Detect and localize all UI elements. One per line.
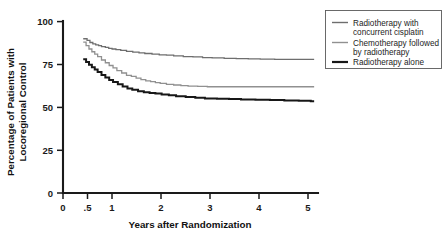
x-tick-label: 0 xyxy=(60,202,65,213)
series-line xyxy=(83,39,314,60)
chart-series-group xyxy=(83,39,314,101)
legend-label: Chemotherapy followed xyxy=(353,39,439,48)
y-tick-label: 100 xyxy=(37,16,53,27)
x-tick-label: .5 xyxy=(84,202,93,213)
y-axis-title-line2: Locoregional Control xyxy=(17,62,28,161)
y-tick-label: 25 xyxy=(42,145,53,156)
x-tick-label: 4 xyxy=(256,202,262,213)
legend-label: Radiotherapy with xyxy=(353,19,419,28)
y-axis-title-line1: Percentage of Patients with xyxy=(5,48,16,176)
legend-label: by radiotherapy xyxy=(353,48,410,57)
legend-label: concurrent cisplatin xyxy=(353,28,424,37)
x-axis-ticks: 0 .5 1 2 3 4 5 xyxy=(60,193,311,213)
chart-legend: Radiotherapy with concurrent cisplatin C… xyxy=(326,11,442,69)
x-tick-label: 1 xyxy=(109,202,115,213)
series-line xyxy=(83,59,314,101)
x-tick-label: 5 xyxy=(305,202,311,213)
x-tick-label: 2 xyxy=(158,202,163,213)
y-tick-label: 75 xyxy=(42,59,53,70)
y-tick-label: 50 xyxy=(42,102,53,113)
y-axis-ticks: 100 75 50 25 0 xyxy=(37,16,63,199)
x-axis-title: Years after Randomization xyxy=(128,219,251,230)
series-line xyxy=(83,42,314,87)
kaplan-meier-chart: Percentage of Patients with Locoregional… xyxy=(0,0,445,245)
legend-label: Radiotherapy alone xyxy=(353,58,424,67)
y-axis-title: Percentage of Patients with Locoregional… xyxy=(5,48,28,176)
y-tick-label: 0 xyxy=(48,188,53,199)
x-tick-label: 3 xyxy=(207,202,212,213)
chart-container: Percentage of Patients with Locoregional… xyxy=(0,0,445,245)
